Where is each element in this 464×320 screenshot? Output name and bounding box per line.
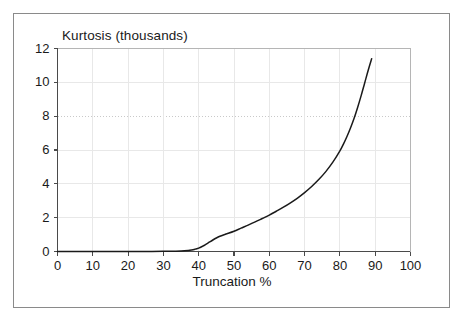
grid-lines bbox=[58, 49, 411, 252]
x-axis-title: Truncation % bbox=[0, 274, 464, 289]
x-tick-label: 0 bbox=[38, 258, 78, 273]
x-tick-label: 30 bbox=[143, 258, 183, 273]
x-tick-label: 100 bbox=[391, 258, 431, 273]
axis-ticks bbox=[54, 49, 411, 256]
x-tick-label: 70 bbox=[285, 258, 325, 273]
x-tick-label: 20 bbox=[108, 258, 148, 273]
x-tick-label: 10 bbox=[73, 258, 113, 273]
y-tick-label: 4 bbox=[24, 176, 50, 191]
y-tick-label: 8 bbox=[24, 108, 50, 123]
y-tick-label: 6 bbox=[24, 142, 50, 157]
x-tick-label: 90 bbox=[355, 258, 395, 273]
y-tick-label: 2 bbox=[24, 210, 50, 225]
data-series bbox=[58, 59, 372, 252]
series-line-0 bbox=[58, 59, 372, 252]
y-tick-label: 10 bbox=[24, 74, 50, 89]
y-tick-label: 0 bbox=[24, 244, 50, 259]
x-tick-label: 50 bbox=[214, 258, 254, 273]
chart-figure: Kurtosis (thousands) 024681012 010203040… bbox=[0, 0, 464, 320]
x-tick-label: 80 bbox=[320, 258, 360, 273]
x-tick-label: 40 bbox=[179, 258, 219, 273]
y-tick-label: 12 bbox=[24, 41, 50, 56]
x-tick-label: 60 bbox=[249, 258, 289, 273]
